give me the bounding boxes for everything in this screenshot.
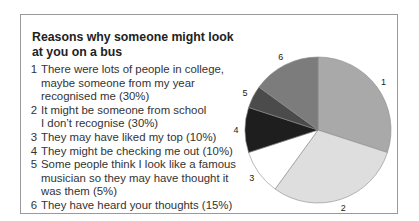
pie-label-4: 4 (233, 125, 238, 135)
pie-chart: 123456 (0, 0, 419, 221)
pie-label-5: 5 (242, 88, 247, 98)
pie-label-3: 3 (249, 173, 254, 183)
pie-label-6: 6 (278, 52, 283, 62)
pie-label-1: 1 (381, 77, 386, 87)
pie-label-2: 2 (341, 203, 346, 213)
